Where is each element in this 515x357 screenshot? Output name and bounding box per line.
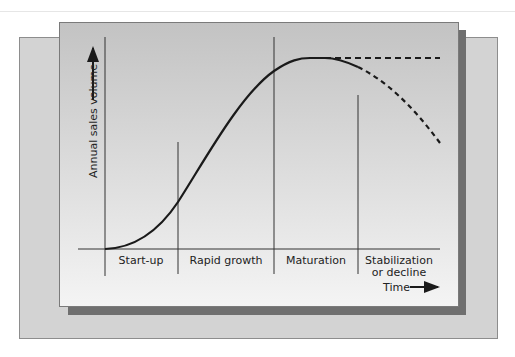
y-axis-label: Annual sales volume — [87, 64, 100, 178]
stage-label-decline: or decline — [372, 266, 427, 279]
stage-label-startup: Start-up — [119, 254, 164, 267]
decline-line — [358, 67, 440, 143]
sales-curve — [105, 58, 358, 249]
x-axis-label: Time — [382, 281, 410, 294]
life-cycle-diagram: Annual sales volume Start-up Rapid growt… — [0, 0, 515, 357]
stage-label-growth: Rapid growth — [190, 254, 263, 267]
stage-label-maturation: Maturation — [286, 254, 346, 267]
